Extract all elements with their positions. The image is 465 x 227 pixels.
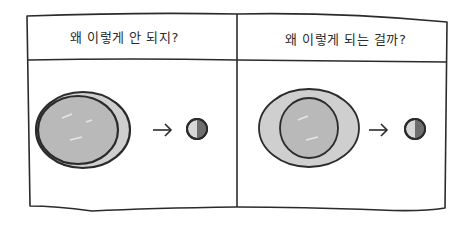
inner-circle-centered bbox=[280, 98, 338, 158]
half-moon-icon bbox=[405, 119, 425, 139]
arrow-icon bbox=[369, 124, 387, 136]
half-moon-icon bbox=[187, 119, 207, 139]
right-panel-art bbox=[259, 89, 425, 167]
right-panel-caption: 왜 이렇게 되는 걸까? bbox=[285, 29, 406, 48]
left-panel-caption: 왜 이렇게 안 되지? bbox=[70, 27, 179, 46]
arrow-icon bbox=[153, 124, 171, 136]
inner-circle-offset bbox=[38, 96, 118, 164]
left-panel-art bbox=[36, 92, 207, 168]
